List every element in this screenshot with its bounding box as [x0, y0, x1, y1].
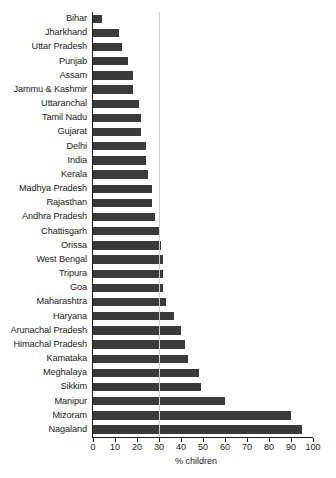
category-label: Mizoram	[52, 409, 87, 423]
bar-chart: BiharJharkhandUttar PradeshPunjabAssamJa…	[0, 0, 336, 478]
table-row: Nagaland	[0, 423, 336, 437]
bar	[93, 241, 161, 249]
category-label: Himachal Pradesh	[14, 338, 87, 352]
category-label: Tamil Nadu	[42, 111, 87, 125]
table-row: Andhra Pradesh	[0, 210, 336, 224]
category-label: Uttaranchal	[41, 97, 87, 111]
bar	[93, 85, 133, 93]
table-row: Manipur	[0, 395, 336, 409]
bar	[93, 15, 102, 23]
table-row: Uttaranchal	[0, 97, 336, 111]
bar	[93, 29, 119, 37]
bar	[93, 114, 141, 122]
bar	[93, 340, 185, 348]
bar	[93, 71, 133, 79]
bar	[93, 369, 199, 377]
category-label: Punjab	[59, 55, 87, 69]
table-row: Punjab	[0, 55, 336, 69]
table-row: Tripura	[0, 267, 336, 281]
category-label: India	[68, 154, 87, 168]
category-label: Uttar Pradesh	[32, 40, 87, 54]
bar	[93, 298, 166, 306]
category-label: Tripura	[59, 267, 87, 281]
category-label: Gujarat	[58, 125, 87, 139]
y-axis-line	[92, 12, 93, 437]
category-label: Goa	[70, 281, 87, 295]
category-label: Assam	[59, 69, 87, 83]
bar	[93, 312, 174, 320]
bar	[93, 128, 141, 136]
bar	[93, 142, 146, 150]
category-label: Jammu & Kashmir	[13, 83, 87, 97]
table-row: Haryana	[0, 310, 336, 324]
bar	[93, 425, 302, 433]
bar	[93, 156, 146, 164]
table-row: India	[0, 154, 336, 168]
bar-rows: BiharJharkhandUttar PradeshPunjabAssamJa…	[0, 0, 336, 425]
reference-gridline-30	[159, 12, 160, 437]
bar	[93, 100, 139, 108]
category-label: Delhi	[67, 140, 87, 154]
category-label: West Bengal	[36, 253, 87, 267]
bar	[93, 227, 159, 235]
table-row: Gujarat	[0, 125, 336, 139]
bar	[93, 213, 155, 221]
table-row: Maharashtra	[0, 295, 336, 309]
table-row: Tamil Nadu	[0, 111, 336, 125]
table-row: Madhya Pradesh	[0, 182, 336, 196]
bar	[93, 411, 291, 419]
bar	[93, 185, 152, 193]
table-row: Meghalaya	[0, 366, 336, 380]
table-row: Arunachal Pradesh	[0, 324, 336, 338]
x-tick-label: 100	[298, 442, 328, 452]
category-label: Jharkhand	[45, 26, 87, 40]
bar	[93, 270, 163, 278]
table-row: Assam	[0, 69, 336, 83]
bar	[93, 170, 148, 178]
table-row: Orissa	[0, 239, 336, 253]
bar	[93, 326, 181, 334]
table-row: Kerala	[0, 168, 336, 182]
bar	[93, 355, 188, 363]
x-axis-title: % children	[0, 456, 336, 466]
table-row: Chattisgarh	[0, 225, 336, 239]
table-row: Uttar Pradesh	[0, 40, 336, 54]
bar	[93, 43, 122, 51]
table-row: Sikkim	[0, 380, 336, 394]
category-label: Orissa	[61, 239, 87, 253]
bar	[93, 383, 201, 391]
table-row: Himachal Pradesh	[0, 338, 336, 352]
category-label: Chattisgarh	[41, 225, 87, 239]
category-label: Bihar	[66, 12, 87, 26]
table-row: Jharkhand	[0, 26, 336, 40]
category-label: Meghalaya	[43, 366, 87, 380]
table-row: Bihar	[0, 12, 336, 26]
bar	[93, 57, 128, 65]
category-label: Nagaland	[48, 423, 87, 437]
category-label: Madhya Pradesh	[19, 182, 87, 196]
category-label: Haryana	[53, 310, 87, 324]
category-label: Sikkim	[61, 380, 87, 394]
category-label: Kerala	[61, 168, 87, 182]
bar	[93, 284, 163, 292]
category-label: Kamataka	[46, 352, 87, 366]
bar	[93, 199, 152, 207]
table-row: Mizoram	[0, 409, 336, 423]
table-row: Kamataka	[0, 352, 336, 366]
table-row: Rajasthan	[0, 196, 336, 210]
table-row: Jammu & Kashmir	[0, 83, 336, 97]
table-row: Goa	[0, 281, 336, 295]
table-row: West Bengal	[0, 253, 336, 267]
category-label: Maharashtra	[37, 295, 87, 309]
table-row: Delhi	[0, 140, 336, 154]
category-label: Manipur	[55, 395, 88, 409]
category-label: Andhra Pradesh	[22, 210, 87, 224]
category-label: Arunachal Pradesh	[11, 324, 87, 338]
bar	[93, 255, 163, 263]
category-label: Rajasthan	[47, 196, 87, 210]
